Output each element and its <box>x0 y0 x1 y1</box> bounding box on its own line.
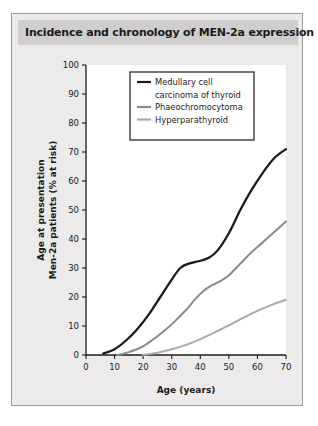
y-tick-label: 30 <box>68 263 79 273</box>
x-axis: 010203040506070 <box>83 355 291 372</box>
y-tick-label: 20 <box>68 292 79 302</box>
chart-legend: Medullary cellcarcinoma of thyroidPhaeoc… <box>130 72 254 140</box>
legend-label: Phaeochromocytoma <box>155 102 243 112</box>
y-tick-label: 0 <box>74 350 79 360</box>
figure-card: Incidence and chronology of MEN-2a expre… <box>11 13 303 406</box>
y-tick-label: 90 <box>68 89 79 99</box>
y-axis-title-line1: Age at presentation <box>36 159 46 260</box>
x-tick-label: 30 <box>166 362 177 372</box>
x-tick-label: 40 <box>195 362 206 372</box>
x-tick-label: 10 <box>109 362 120 372</box>
x-axis-title: Age (years) <box>157 385 216 395</box>
x-tick-label: 50 <box>223 362 234 372</box>
x-tick-label: 0 <box>83 362 88 372</box>
page-title: Incidence and chronology of MEN-2a expre… <box>18 26 314 39</box>
y-tick-label: 60 <box>68 176 79 186</box>
chart-plot-area: 0102030405060708090100 010203040506070 M… <box>12 45 302 405</box>
legend-label: Medullary cell <box>155 77 213 87</box>
x-tick-label: 60 <box>252 362 263 372</box>
y-tick-label: 40 <box>68 234 79 244</box>
y-tick-label: 50 <box>68 205 79 215</box>
x-tick-label: 70 <box>281 362 292 372</box>
legend-label: Hyperparathyroid <box>155 115 228 125</box>
legend-label: carcinoma of thyroid <box>155 90 241 100</box>
figure-title-bar: Incidence and chronology of MEN-2a expre… <box>18 20 298 45</box>
y-tick-label: 70 <box>68 147 79 157</box>
y-axis: 0102030405060708090100 <box>63 60 86 360</box>
y-axis-title-line2: Men-2a patients (% at risk) <box>48 141 58 280</box>
line-chart: 0102030405060708090100 010203040506070 M… <box>12 45 302 405</box>
y-tick-label: 10 <box>68 321 79 331</box>
y-tick-label: 80 <box>68 118 79 128</box>
x-tick-label: 20 <box>138 362 149 372</box>
y-tick-label: 100 <box>63 60 79 70</box>
